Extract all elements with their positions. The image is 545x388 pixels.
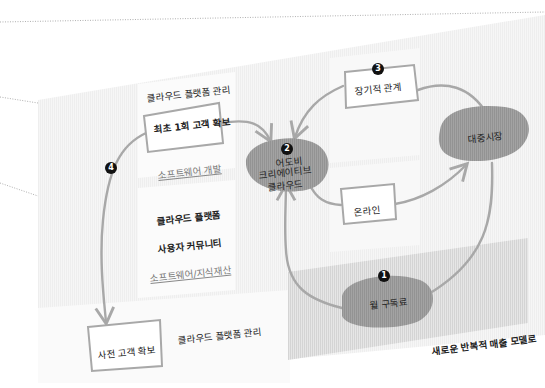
badge-3: 3: [372, 63, 384, 75]
business-model-diagram: 1 2 3 4 클라우드 플랫폼 관리 최초 1회 고객 확보 소프트웨어 개발…: [0, 0, 545, 388]
badge-4: 4: [105, 162, 117, 174]
badge-1: 1: [378, 270, 390, 282]
node-online-label: 온라인: [353, 202, 380, 219]
badge-2: 2: [281, 143, 293, 155]
diagram-canvas: [0, 0, 545, 388]
